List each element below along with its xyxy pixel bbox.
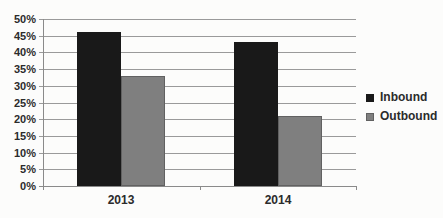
x-axis-tick [356, 186, 357, 190]
x-axis-label-2014: 2014 [265, 193, 292, 207]
legend-item-outbound: Outbound [366, 110, 437, 123]
y-axis-label: 10% [14, 147, 36, 159]
bar-outbound-2014 [278, 116, 322, 186]
y-axis-label: 45% [14, 30, 36, 42]
gridline [39, 19, 356, 20]
y-axis-label: 20% [14, 113, 36, 125]
bar-outbound-2013 [121, 76, 165, 186]
y-axis-label: 40% [14, 46, 36, 58]
x-axis-label-2013: 2013 [108, 193, 135, 207]
legend-item-inbound: Inbound [366, 91, 437, 104]
legend-label: Inbound [380, 91, 427, 104]
x-axis-line [39, 186, 356, 187]
bar-inbound-2013 [77, 32, 121, 186]
y-axis-label: 30% [14, 80, 36, 92]
x-axis-tick [43, 186, 44, 190]
legend-swatch-icon [366, 113, 374, 121]
y-axis-label: 0% [20, 180, 36, 192]
x-axis-tick [200, 186, 201, 190]
y-axis-label: 35% [14, 63, 36, 75]
legend-label: Outbound [380, 110, 437, 123]
y-axis-label: 25% [14, 97, 36, 109]
y-axis-label: 50% [14, 13, 36, 25]
chart-screenshot: 0%5%10%15%20%25%30%35%40%45%50%20132014 … [0, 0, 443, 218]
bar-inbound-2014 [234, 42, 278, 186]
legend: InboundOutbound [366, 91, 437, 123]
y-axis-label: 5% [20, 163, 36, 175]
y-axis-line [43, 19, 44, 186]
legend-swatch-icon [366, 94, 374, 102]
y-axis-label: 15% [14, 130, 36, 142]
